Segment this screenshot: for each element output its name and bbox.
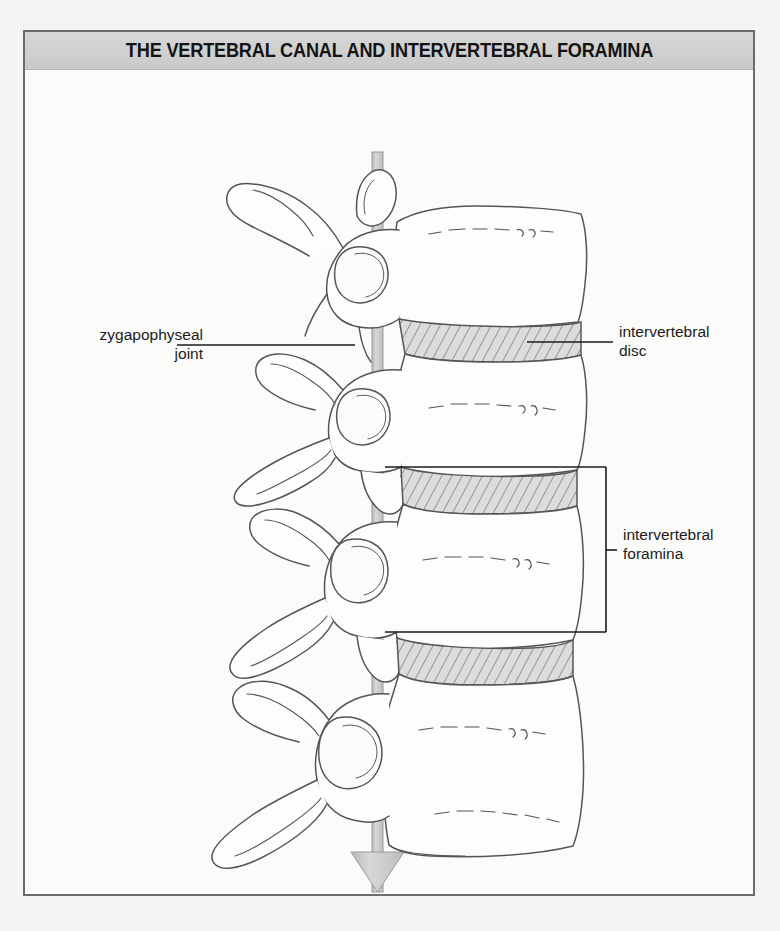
figure-title-bar: THE VERTEBRAL CANAL AND INTERVERTEBRAL F… [25,32,753,70]
label-line: foramina [623,544,713,563]
label-line: joint [25,344,203,363]
label-intervertebral-foramina: intervertebral foramina [623,525,713,563]
page-title: THE VERTEBRAL CANAL AND INTERVERTEBRAL F… [125,39,652,62]
label-zygapophyseal-joint: zygapophyseal joint [25,325,203,363]
vertebrae-illustration [25,70,755,896]
label-line: intervertebral [619,322,709,341]
label-line: disc [619,341,709,360]
label-line: zygapophyseal [25,325,203,344]
figure-canvas: zygapophyseal joint intervertebral disc … [25,70,753,896]
anatomy-figure: THE VERTEBRAL CANAL AND INTERVERTEBRAL F… [23,30,755,896]
label-line: intervertebral [623,525,713,544]
label-intervertebral-disc: intervertebral disc [619,322,709,360]
